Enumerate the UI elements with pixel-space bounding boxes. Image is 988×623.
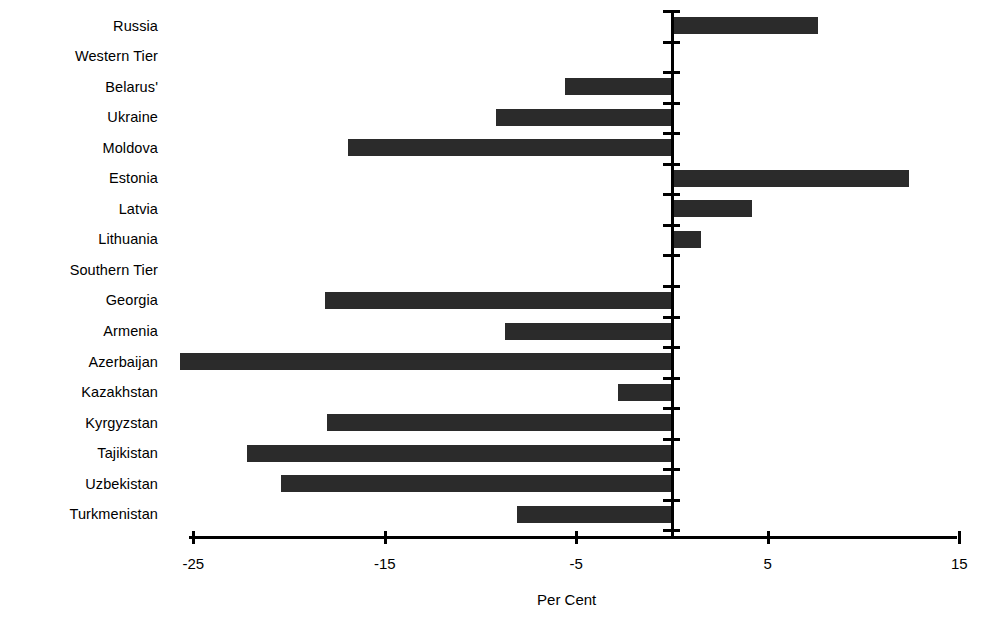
x-tick (384, 531, 387, 544)
x-tick (575, 531, 578, 544)
bar (180, 353, 672, 370)
x-axis-title: Per Cent (537, 592, 596, 607)
x-tick (767, 531, 770, 544)
category-tick (663, 10, 680, 13)
bar (247, 445, 672, 462)
category-tick (663, 285, 680, 288)
bar (672, 231, 701, 248)
bar (496, 109, 672, 126)
category-tick (663, 407, 680, 410)
x-axis-line (189, 536, 957, 539)
x-tick-label: -15 (374, 556, 396, 571)
category-tick (663, 438, 680, 441)
plot-area: -25-15-5515 Per Cent (0, 0, 988, 623)
category-tick (663, 529, 680, 532)
chart-container: RussiaWestern TierBelarus'UkraineMoldova… (0, 0, 988, 623)
category-tick (663, 163, 680, 166)
category-tick (663, 316, 680, 319)
x-tick-label: 5 (764, 556, 772, 571)
category-tick (663, 71, 680, 74)
bar (348, 139, 672, 156)
bar (325, 292, 672, 309)
bar (672, 200, 752, 217)
bar (672, 17, 818, 34)
category-tick (663, 346, 680, 349)
category-tick (663, 254, 680, 257)
category-tick (663, 468, 680, 471)
x-tick (958, 531, 961, 544)
category-tick (663, 377, 680, 380)
category-tick (663, 132, 680, 135)
x-tick-label: -5 (570, 556, 583, 571)
category-tick (663, 193, 680, 196)
bar (505, 323, 672, 340)
bar (672, 170, 909, 187)
bar (281, 475, 672, 492)
x-tick-label: -25 (182, 556, 204, 571)
category-tick (663, 41, 680, 44)
x-tick (192, 531, 195, 544)
category-tick (663, 224, 680, 227)
category-tick (663, 102, 680, 105)
bar (327, 414, 672, 431)
zero-axis-line (671, 11, 674, 538)
category-tick (663, 499, 680, 502)
bar (517, 506, 672, 523)
x-tick-label: 15 (951, 556, 968, 571)
bar (565, 78, 672, 95)
bar (618, 384, 672, 401)
